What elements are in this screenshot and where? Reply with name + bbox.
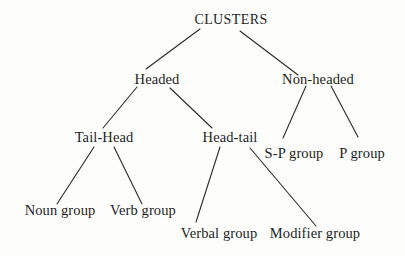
edge-headed-head-tail [170,88,212,128]
node-headed: Headed [135,71,180,87]
edge-non-headed-p-group [331,86,358,137]
tree-diagram: CLUSTERS Headed Non-headed Tail-Head Hea… [0,0,405,256]
node-verb-group: Verb group [110,202,176,218]
node-head-tail: Head-tail [203,129,258,145]
edge-clusters-non-headed [240,31,298,75]
node-noun-group: Noun group [25,202,96,218]
edge-tail-head-noun-group [57,147,94,204]
node-sp-group: S-P group [265,145,324,161]
edge-non-headed-sp-group [283,86,306,138]
edge-head-tail-verbal-group [196,147,220,222]
node-p-group: P group [339,145,385,161]
edge-tail-head-verb-group [114,147,142,204]
node-non-headed: Non-headed [282,71,354,87]
node-tail-head: Tail-Head [75,129,134,145]
node-modifier-group: Modifier group [270,225,360,241]
edge-headed-tail-head [103,87,137,128]
edge-clusters-headed [146,29,200,69]
node-verbal-group: Verbal group [181,225,258,241]
node-clusters: CLUSTERS [194,12,267,28]
